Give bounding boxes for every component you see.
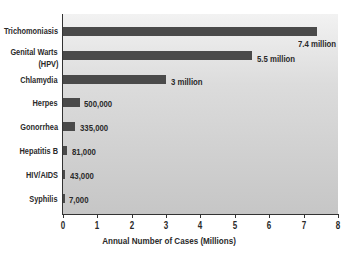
x-tick xyxy=(132,214,133,218)
x-tick xyxy=(304,214,305,218)
bar-gonorrhea xyxy=(63,122,75,131)
x-tick-label: 0 xyxy=(58,220,68,231)
bar-trichomoniasis xyxy=(63,27,317,36)
x-tick-label: 4 xyxy=(195,220,205,231)
x-tick xyxy=(338,214,339,218)
category-label: Genital Warts xyxy=(11,47,58,57)
x-tick-label: 1 xyxy=(92,220,102,231)
data-label: 7.4 million xyxy=(298,39,336,49)
x-tick-label: 3 xyxy=(161,220,171,231)
x-tick-label: 6 xyxy=(264,220,274,231)
data-label: 5.5 million xyxy=(257,54,295,64)
x-tick xyxy=(235,214,236,218)
category-label: Hepatitis B xyxy=(19,146,58,156)
bar-syphilis xyxy=(63,194,65,203)
y-axis xyxy=(62,14,63,215)
bar-chart: Trichomoniasis Genital Warts (HPV) Chlam… xyxy=(0,0,353,257)
x-tick xyxy=(166,214,167,218)
data-label: 81,000 xyxy=(72,147,96,157)
category-label: Chlamydia xyxy=(21,75,58,85)
data-label: 7,000 xyxy=(69,195,89,205)
x-tick xyxy=(63,214,64,218)
data-label: 43,000 xyxy=(70,171,94,181)
bar-genital-warts xyxy=(63,51,252,60)
x-axis-title: Annual Number of Cases (Millions) xyxy=(79,235,259,246)
x-tick-label: 8 xyxy=(333,220,343,231)
category-label: Syphilis xyxy=(30,194,58,204)
category-label: Trichomoniasis xyxy=(4,26,58,36)
bar-herpes xyxy=(63,98,80,107)
category-label: Herpes xyxy=(33,98,58,108)
x-tick-label: 7 xyxy=(299,220,309,231)
category-label: HIV/AIDS xyxy=(26,170,58,180)
data-label: 500,000 xyxy=(84,99,112,109)
x-tick xyxy=(269,214,270,218)
x-tick xyxy=(200,214,201,218)
category-label: (HPV) xyxy=(38,59,58,69)
bar-chlamydia xyxy=(63,75,166,84)
plot-area xyxy=(63,14,338,214)
data-label: 335,000 xyxy=(80,123,108,133)
x-tick-label: 5 xyxy=(230,220,240,231)
x-tick-label: 2 xyxy=(127,220,137,231)
x-tick xyxy=(97,214,98,218)
bar-hiv-aids xyxy=(63,170,65,179)
category-label: Gonorrhea xyxy=(20,122,58,132)
data-label: 3 million xyxy=(171,77,203,87)
bar-hepatitis-b xyxy=(63,146,67,155)
